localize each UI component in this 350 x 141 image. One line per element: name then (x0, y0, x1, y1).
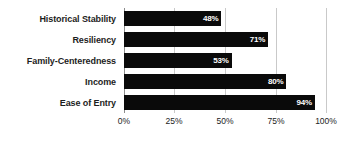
horizontal-bar-chart: Historical Stability Resiliency Family-C… (0, 0, 350, 141)
bar-row: 94% (124, 92, 327, 113)
bar-series: 48% 71% 53% 80% 94% (124, 8, 327, 113)
bar[interactable]: 71% (124, 32, 268, 47)
bar-row: 53% (124, 50, 327, 71)
xtick-label: 0% (118, 116, 130, 126)
bar[interactable]: 48% (124, 11, 221, 26)
bar[interactable]: 94% (124, 95, 315, 110)
category-label: Historical Stability (0, 8, 120, 29)
xtick-label: 100% (315, 116, 337, 126)
bar-value-label: 71% (250, 36, 265, 44)
plot-area: 48% 71% 53% 80% 94% (124, 8, 327, 113)
category-label: Resiliency (0, 29, 120, 50)
bar-value-label: 53% (213, 57, 228, 65)
xtick-label: 50% (216, 116, 233, 126)
bar-value-label: 94% (296, 99, 311, 107)
x-axis: 0% 25% 50% 75% 100% (124, 114, 327, 130)
category-axis: Historical Stability Resiliency Family-C… (0, 8, 120, 113)
bar-row: 48% (124, 8, 327, 29)
bar-value-label: 48% (203, 15, 218, 23)
category-label: Family-Centeredness (0, 50, 120, 71)
category-label: Income (0, 71, 120, 92)
bar[interactable]: 53% (124, 53, 232, 68)
category-label: Ease of Entry (0, 92, 120, 113)
xtick-label: 75% (267, 116, 284, 126)
bar-value-label: 80% (268, 78, 283, 86)
bar-row: 80% (124, 71, 327, 92)
bar[interactable]: 80% (124, 74, 286, 89)
bar-row: 71% (124, 29, 327, 50)
xtick-label: 25% (165, 116, 182, 126)
